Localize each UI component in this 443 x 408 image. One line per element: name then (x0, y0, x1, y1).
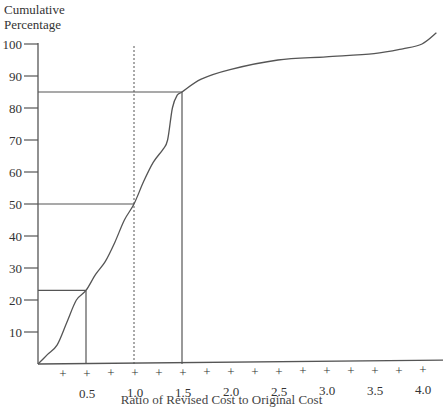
y-tick-label: 80 (9, 101, 22, 116)
x-tick-plus: + (59, 366, 66, 381)
x-tick-plus: + (275, 364, 282, 379)
x-tick-plus: + (107, 365, 114, 380)
x-tick-plus: + (251, 364, 258, 379)
y-tick-label: 30 (9, 261, 22, 276)
x-tick-plus: + (83, 366, 90, 381)
x-axis-line (38, 360, 443, 364)
x-tick-plus: + (131, 365, 138, 380)
y-tick-label: 90 (9, 69, 22, 84)
x-tick-plus: + (419, 362, 426, 377)
x-tick-plus: + (179, 365, 186, 380)
x-tick-plus: + (155, 365, 162, 380)
x-tick-plus: + (203, 364, 210, 379)
y-tick-label: 20 (9, 293, 22, 308)
y-tick-label: 40 (9, 229, 22, 244)
y-tick-label: 100 (3, 37, 23, 52)
x-axis-title: Ratio of Revised Cost to Original Cost (0, 392, 443, 408)
y-tick-label: 10 (9, 325, 22, 340)
x-tick-plus: + (299, 363, 306, 378)
y-tick-label: 50 (9, 197, 22, 212)
y-tick-label: 70 (9, 133, 22, 148)
x-tick-plus: + (227, 364, 234, 379)
x-tick-plus: + (371, 363, 378, 378)
y-axis-ticks: 102030405060708090100 (3, 37, 39, 340)
cumulative-curve (38, 33, 436, 364)
reference-lines (38, 44, 182, 364)
x-tick-plus: + (347, 363, 354, 378)
x-tick-plus: + (395, 363, 402, 378)
y-tick-label: 60 (9, 165, 22, 180)
x-tick-plus: + (323, 363, 330, 378)
